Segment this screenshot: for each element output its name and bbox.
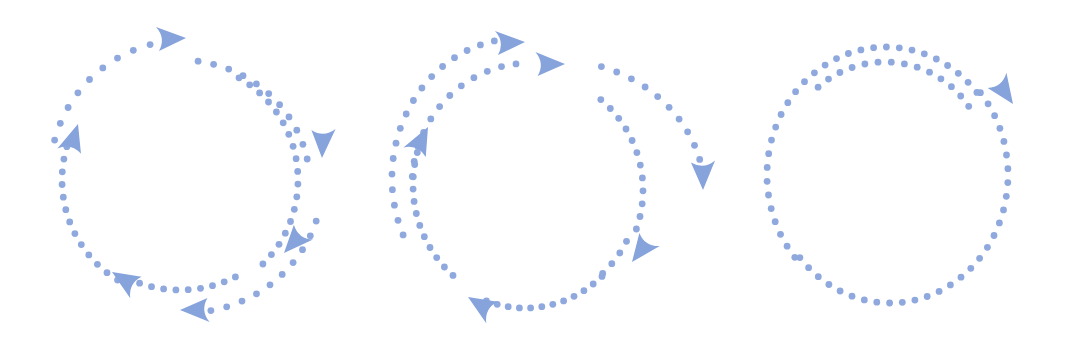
dot	[411, 198, 418, 205]
dot	[849, 64, 856, 71]
dot	[221, 278, 228, 285]
dot	[1005, 165, 1012, 172]
dot	[772, 218, 779, 225]
dot	[938, 75, 945, 82]
dot	[590, 281, 597, 288]
dot	[94, 261, 101, 268]
dot	[777, 231, 784, 238]
dot	[815, 273, 822, 280]
dot	[599, 273, 606, 280]
dot	[75, 89, 82, 96]
dot	[225, 66, 232, 73]
dot	[253, 290, 260, 297]
dot	[51, 137, 58, 144]
dot	[965, 103, 972, 110]
dot	[428, 73, 435, 80]
dot	[888, 59, 895, 66]
dot	[801, 78, 808, 85]
dot	[607, 105, 614, 112]
dot	[59, 168, 66, 175]
dot	[623, 126, 630, 133]
dot	[147, 41, 154, 48]
dot	[870, 44, 877, 51]
dot	[285, 131, 292, 138]
dot	[498, 63, 505, 70]
dot	[513, 61, 520, 68]
dot	[260, 261, 267, 268]
dot	[290, 143, 297, 150]
dot	[104, 269, 111, 276]
dot	[397, 125, 404, 132]
dot	[805, 264, 812, 271]
dot	[293, 193, 300, 200]
diagram-canvas	[0, 0, 1065, 350]
dot	[61, 156, 68, 163]
dot	[78, 241, 85, 248]
dot	[411, 161, 418, 168]
dot	[948, 83, 955, 90]
dot	[391, 202, 398, 209]
dot	[293, 127, 300, 134]
dot	[691, 142, 698, 149]
dot	[765, 192, 772, 199]
dot	[837, 288, 844, 295]
dot	[958, 274, 965, 281]
dot	[62, 206, 69, 213]
dot	[822, 62, 829, 69]
dot	[279, 271, 286, 278]
dot	[421, 233, 428, 240]
dot	[784, 99, 791, 106]
dot	[628, 75, 635, 82]
dot	[208, 307, 215, 314]
dot	[849, 293, 856, 300]
dot	[933, 56, 940, 63]
dot	[765, 150, 772, 157]
dot	[598, 63, 605, 70]
dot	[666, 104, 673, 111]
dot	[160, 286, 167, 293]
dot	[57, 120, 64, 127]
dot	[926, 69, 933, 76]
dot	[991, 232, 998, 239]
dot	[410, 97, 417, 104]
dot	[778, 111, 785, 118]
dot	[427, 116, 434, 123]
dot	[914, 64, 921, 71]
dot	[265, 90, 272, 97]
dot	[273, 109, 280, 116]
dot	[410, 173, 417, 180]
dot	[1000, 207, 1007, 214]
dot	[236, 74, 243, 81]
dot	[896, 44, 903, 51]
dot	[307, 232, 314, 239]
dot	[72, 230, 79, 237]
dot	[955, 70, 962, 77]
dot	[304, 156, 311, 163]
dot	[581, 287, 588, 294]
dot	[446, 92, 453, 99]
dot	[287, 218, 294, 225]
dot	[410, 186, 417, 193]
dot	[815, 84, 822, 91]
dot	[86, 76, 93, 83]
dot	[571, 293, 578, 300]
dot	[976, 255, 983, 262]
dot	[936, 288, 943, 295]
dot	[924, 293, 931, 300]
dot	[772, 124, 779, 131]
dot	[965, 79, 972, 86]
dot	[615, 115, 622, 122]
dot	[253, 81, 260, 88]
dot	[450, 272, 457, 279]
dot	[654, 93, 661, 100]
dot	[60, 194, 67, 201]
dot	[209, 282, 216, 289]
dot	[223, 303, 230, 310]
dot	[637, 162, 644, 169]
dot	[538, 303, 545, 310]
dot	[833, 55, 840, 62]
dot	[764, 178, 771, 185]
dot	[99, 65, 106, 72]
dot	[293, 155, 300, 162]
dot	[642, 84, 649, 91]
